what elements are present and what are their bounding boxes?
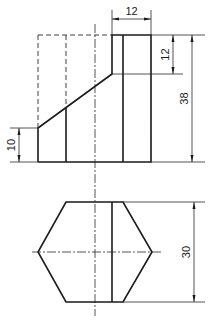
dim-top-width: 12 xyxy=(112,5,151,35)
dim-left-height: 10 xyxy=(5,128,38,162)
dim-label-hex-width: 30 xyxy=(180,246,192,258)
front-outline xyxy=(38,35,151,162)
front-view xyxy=(38,35,151,162)
technical-drawing: 12 12 38 10 30 xyxy=(0,0,208,325)
dim-label-left-height: 10 xyxy=(5,139,17,151)
dim-label-upper-height: 12 xyxy=(159,48,171,60)
dim-hex-width: 30 xyxy=(123,202,205,302)
dim-label-total-height: 38 xyxy=(178,92,190,104)
dim-label-top-width: 12 xyxy=(125,5,137,17)
top-view xyxy=(32,202,162,302)
